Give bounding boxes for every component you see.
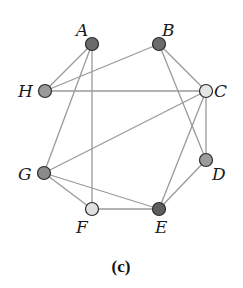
node-label-e: E	[154, 217, 168, 237]
edge-g-e	[44, 173, 159, 209]
node-label-b: B	[161, 20, 175, 40]
node-h	[39, 85, 52, 98]
edge-d-e	[159, 160, 206, 209]
edges-layer	[44, 44, 206, 209]
node-label-d: D	[211, 164, 226, 184]
node-g	[38, 167, 51, 180]
labels-layer: ABCDEFGH	[17, 20, 227, 237]
edge-b-h	[45, 44, 159, 91]
edge-c-g	[44, 91, 206, 173]
node-label-h: H	[17, 81, 34, 101]
nodes-layer	[38, 38, 213, 216]
node-e	[153, 203, 166, 216]
edge-a-g	[44, 44, 92, 173]
node-label-a: A	[74, 20, 88, 40]
node-label-f: F	[75, 217, 89, 237]
figure-caption: (c)	[112, 257, 131, 276]
graph-diagram: ABCDEFGH (c)	[0, 0, 243, 288]
node-label-c: C	[214, 81, 227, 101]
edge-g-f	[44, 173, 92, 209]
node-f	[86, 203, 99, 216]
edge-b-c	[159, 44, 206, 91]
node-c	[200, 85, 213, 98]
node-label-g: G	[18, 164, 32, 184]
node-d	[200, 154, 213, 167]
edge-a-h	[45, 44, 92, 91]
edge-b-d	[159, 44, 206, 160]
edge-c-e	[159, 91, 206, 209]
